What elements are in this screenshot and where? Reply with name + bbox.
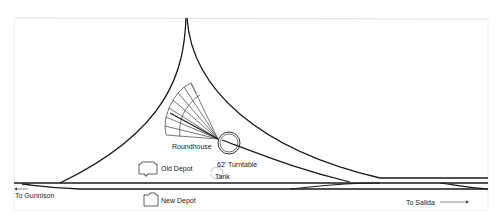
roundhouse-stalls: [165, 83, 218, 139]
old-depot-label: Old Depot: [161, 165, 193, 172]
new-depot-label: New Depot: [161, 197, 196, 204]
siding-track: [22, 184, 488, 189]
to-gunnison-label: To Gunnison: [15, 192, 54, 199]
tank-label: Tank: [215, 173, 230, 180]
turntable-label: 62' Turntable: [217, 161, 257, 168]
to-salida-label: To Salida: [406, 199, 435, 206]
salida-arrow-head: [466, 201, 469, 204]
old-depot-icon: [139, 162, 157, 176]
crossover-1: [290, 183, 380, 189]
frame-top: [14, 18, 488, 19]
roundhouse-lead: [170, 113, 218, 139]
crossover-2: [440, 183, 488, 189]
wye-west-leg: [60, 18, 186, 183]
new-depot-icon: [144, 193, 158, 206]
track-diagram: [0, 0, 499, 222]
wye-east-leg: [187, 18, 380, 178]
roundhouse-label: Roundhouse: [172, 143, 212, 150]
